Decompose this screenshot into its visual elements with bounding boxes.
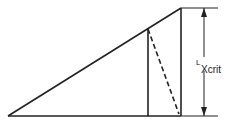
diagram: L Xcrit bbox=[0, 0, 238, 122]
label-l: L bbox=[196, 58, 200, 67]
hypotenuse bbox=[8, 8, 181, 116]
triangle-diagram bbox=[0, 0, 238, 122]
dashed-line bbox=[148, 29, 179, 114]
arrow-down-icon bbox=[201, 107, 207, 116]
label-xcrit: Xcrit bbox=[201, 64, 221, 75]
arrow-up-icon bbox=[201, 8, 207, 17]
